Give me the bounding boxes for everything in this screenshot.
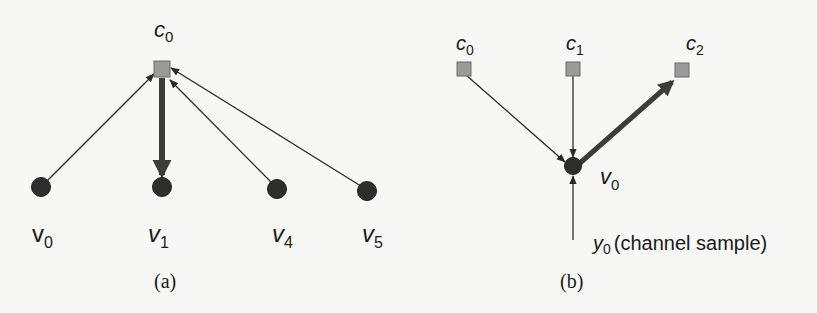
label-v5: v5 [362,220,383,251]
label-y0-channel-sample: y0(channel sample) [591,232,767,257]
label-c1: c1 [566,32,584,58]
label-c0: c0 [154,17,173,45]
edge-c0-to-v0 [466,75,565,162]
check-node-c1 [566,62,580,76]
variable-node-v0 [32,178,51,197]
edge-v0-to-c0 [43,74,154,185]
variable-node-v1 [153,178,172,197]
variable-node-v0 [565,158,582,175]
check-node-c2 [675,63,689,77]
variable-node-v4 [268,180,287,199]
check-node-c0 [457,62,471,76]
edge-v4-to-c0 [170,80,275,186]
edge-v0-to-c2 [580,82,672,163]
label-v0: v0 [600,164,619,193]
variable-node-v5 [358,182,377,201]
check-node-c0 [154,61,170,77]
panel-b: c0 c1 c2 v0 y0(channel sample) (b) [456,32,767,293]
label-v0: v0 [32,220,53,251]
caption-a: (a) [154,270,176,293]
label-c0: c0 [456,32,474,58]
panel-a: c0 v0 v1 v4 v5 (a) [32,17,384,293]
label-c2: c2 [686,32,704,58]
caption-b: (b) [560,270,583,293]
edge-v5-to-c0 [171,68,364,188]
label-v1: v1 [148,220,169,251]
label-v4: v4 [272,220,293,251]
tanner-graph-figure: c0 v0 v1 v4 v5 (a) c0 c1 [0,0,817,313]
